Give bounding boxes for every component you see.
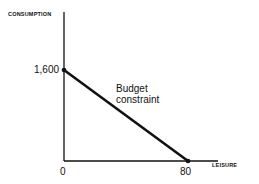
y-tick-1600: 1,600 xyxy=(34,64,59,75)
y-axis-label: CONSUMPTION xyxy=(8,11,51,17)
intercept-point-leisure xyxy=(186,159,191,164)
x-axis-label: LEISURE xyxy=(212,162,237,168)
intercept-point-consumption xyxy=(62,68,67,73)
x-tick-0: 0 xyxy=(60,166,66,177)
budget-constraint-annotation: Budget constraint xyxy=(116,83,186,105)
annotation-line-2: constraint xyxy=(116,94,186,105)
annotation-line-1: Budget xyxy=(116,83,186,94)
x-tick-80: 80 xyxy=(180,166,191,177)
